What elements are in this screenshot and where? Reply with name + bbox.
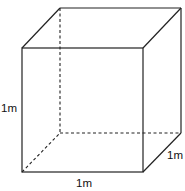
depth-label: 1m xyxy=(167,149,183,161)
hidden-edge-bottom-left-depth xyxy=(22,133,60,172)
height-label: 1m xyxy=(1,102,17,114)
edge-top-left-depth xyxy=(22,8,60,48)
width-label: 1m xyxy=(76,177,92,189)
cube-diagram: 1m 1m 1m xyxy=(0,0,185,191)
front-face xyxy=(22,48,143,172)
edge-top-right-depth xyxy=(143,8,181,48)
